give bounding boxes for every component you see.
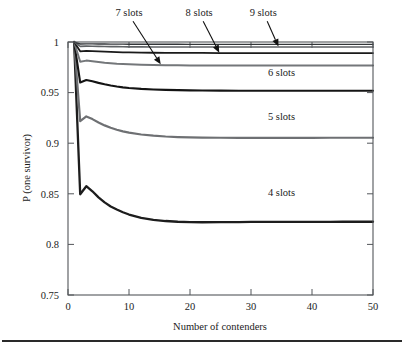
annotation-label-9-slots: 9 slots	[250, 7, 277, 18]
footer-divider	[2, 340, 402, 342]
y-tick-label: 0.95	[41, 87, 59, 98]
x-tick-label: 10	[124, 301, 135, 312]
plot-background	[68, 42, 373, 295]
x-tick-label: 50	[368, 301, 379, 312]
annotation-label-8-slots: 8 slots	[186, 7, 213, 18]
y-tick-label: 0.85	[41, 189, 59, 200]
annotation-arrow-line	[267, 21, 275, 40]
x-axis-title: Number of contenders	[173, 321, 267, 332]
x-tick-label: 20	[185, 301, 196, 312]
y-tick-label: 0.9	[46, 138, 59, 149]
x-tick-label: 0	[65, 301, 70, 312]
annotation-label-4-slots: 4 slots	[268, 187, 295, 198]
y-tick-label: 0.75	[41, 290, 59, 301]
annotation-label-5-slots: 5 slots	[268, 111, 295, 122]
x-tick-label: 40	[307, 301, 318, 312]
y-tick-label: 1	[54, 37, 59, 48]
y-tick-label: 0.8	[46, 239, 59, 250]
figure-container: 0.750.80.850.90.951 01020304050 7 slots8…	[0, 0, 405, 352]
line-chart: 0.750.80.850.90.951 01020304050 7 slots8…	[0, 0, 405, 352]
annotation-label-7-slots: 7 slots	[115, 7, 142, 18]
annotation-label-6-slots: 6 slots	[268, 67, 295, 78]
y-axis-title: P (one survivor)	[21, 134, 33, 202]
x-tick-label: 30	[246, 301, 257, 312]
